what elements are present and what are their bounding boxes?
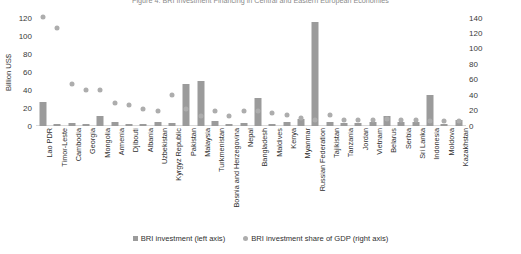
dot-georgia: [84, 87, 89, 92]
bar-albania: [140, 124, 147, 126]
dot-turkmenistan: [213, 109, 218, 114]
bar-cambodia: [68, 123, 75, 126]
chart-column: [165, 18, 179, 126]
chart-column: [251, 18, 265, 126]
dot-maldives: [270, 110, 275, 115]
bar-mongolia: [97, 116, 104, 126]
plot-area: [36, 18, 466, 126]
x-tick-label: Russian Federation: [319, 128, 327, 191]
x-tick-label: Pakistan: [190, 128, 198, 156]
chart-column: [65, 18, 79, 126]
chart-column: [265, 18, 279, 126]
dot-lao-pdr: [41, 15, 46, 20]
dot-tanzania: [342, 117, 347, 122]
chart-column: [208, 18, 222, 126]
x-tick-label: Belarus: [390, 128, 398, 153]
dot-russian-federation: [313, 117, 318, 122]
chart-column: [179, 18, 193, 126]
dot-bosnia-and-herzegovina: [227, 113, 232, 118]
bar-maldives: [269, 124, 276, 126]
dot-bangladesh: [256, 108, 261, 113]
bar-bosnia-and-herzegovina: [226, 124, 233, 126]
legend-label: BRI investment (left axis): [141, 234, 225, 243]
x-tick-label: Albania: [147, 128, 155, 152]
x-tick-label: Maldives: [276, 128, 284, 157]
y-tick-right: 120: [469, 29, 499, 38]
y-tick-right: 140: [469, 14, 499, 23]
y-tick-right: 100: [469, 44, 499, 53]
legend-circle-icon: [243, 236, 248, 241]
y-tick-left: 0: [2, 122, 32, 131]
bar-lao-pdr: [40, 102, 47, 126]
chart-column: [294, 18, 308, 126]
dot-vietnam: [370, 117, 375, 122]
y-tick-left: 20: [2, 104, 32, 113]
chart-legend: BRI investment (left axis)BRI investment…: [0, 234, 521, 243]
chart-column: [280, 18, 294, 126]
dot-tajikistan: [327, 113, 332, 118]
x-tick-label: Kyrgyz Republic: [175, 128, 183, 181]
dot-jordan: [356, 117, 361, 122]
chart-column: [337, 18, 351, 126]
bar-armenia: [111, 122, 118, 126]
dot-sri-lanka: [413, 117, 418, 122]
x-tick-label: Tanzania: [347, 128, 355, 157]
legend-label: BRI investment share of GDP (right axis): [251, 234, 388, 243]
bar-tanzania: [341, 123, 348, 126]
bar-kenya: [283, 122, 290, 127]
dot-timor-leste: [55, 26, 60, 31]
dot-mongolia: [98, 87, 103, 92]
y-axis-left: Billion US$ 020406080100120: [0, 0, 32, 254]
bar-moldova: [441, 124, 448, 126]
x-tick-label: Kenya: [290, 128, 298, 149]
chart-column: [36, 18, 50, 126]
dot-nepal: [241, 109, 246, 114]
legend-item-1[interactable]: BRI investment share of GDP (right axis): [243, 234, 388, 243]
x-tick-label: Uzbekistan: [161, 128, 169, 164]
chart-column: [366, 18, 380, 126]
bar-turkmenistan: [212, 121, 219, 126]
x-tick-label: Vietnam: [376, 128, 384, 155]
legend-square-icon: [133, 236, 138, 241]
x-tick-label: Myanmar: [304, 128, 312, 158]
bar-malaysia: [197, 81, 204, 126]
y-tick-left: 80: [2, 50, 32, 59]
chart-column: [222, 18, 236, 126]
x-tick-label: Tajikistan: [333, 128, 341, 158]
dot-kazakhstan: [456, 119, 461, 124]
y-tick-left: 40: [2, 86, 32, 95]
chart-column: [122, 18, 136, 126]
chart-container: Figure 4. BRI Investment Financing in Ce…: [0, 0, 521, 254]
dot-serbia: [399, 117, 404, 122]
y-tick-right: 60: [469, 75, 499, 84]
dot-moldova: [442, 119, 447, 124]
legend-item-0[interactable]: BRI investment (left axis): [133, 234, 225, 243]
dot-kyrgyz-republic: [170, 93, 175, 98]
x-tick-label: Mongolia: [104, 128, 112, 158]
y-tick-right: 40: [469, 91, 499, 100]
x-tick-label: Turkmenistan: [218, 128, 226, 172]
bar-nepal: [240, 123, 247, 126]
chart-column: [394, 18, 408, 126]
bar-georgia: [83, 124, 90, 126]
chart-column: [380, 18, 394, 126]
x-tick-label: Lao PDR: [46, 128, 54, 158]
x-tick-label: Armenia: [118, 128, 126, 155]
chart-title: Figure 4. BRI Investment Financing in Ce…: [0, 0, 521, 5]
bar-kyrgyz-republic: [169, 123, 176, 126]
dot-armenia: [112, 100, 117, 105]
bar-uzbekistan: [154, 122, 161, 126]
x-tick-label: Timor-Leste: [61, 128, 69, 167]
chart-column: [79, 18, 93, 126]
chart-column: [308, 18, 322, 126]
dot-myanmar: [299, 115, 304, 120]
dot-pakistan: [184, 107, 189, 112]
y-tick-right: 0: [469, 122, 499, 131]
y-tick-right: 20: [469, 106, 499, 115]
bar-djibouti: [126, 124, 133, 126]
dot-indonesia: [428, 118, 433, 123]
chart-column: [237, 18, 251, 126]
x-tick-label: Kazakhstan: [462, 128, 470, 166]
bar-serbia: [398, 122, 405, 126]
dot-cambodia: [69, 81, 74, 86]
